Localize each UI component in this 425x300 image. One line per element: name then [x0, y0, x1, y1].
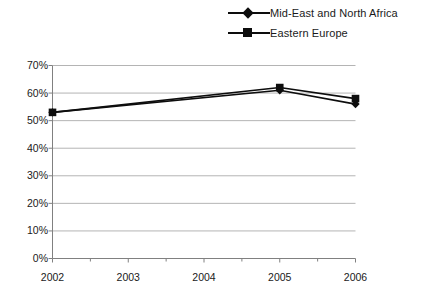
x-axis-tick-label: 2005 [250, 272, 310, 283]
x-axis-labels: 20022003200420052006 [0, 0, 425, 300]
x-axis-tick-label: 2002 [23, 272, 83, 283]
chart-container: Mid-East and North Africa Eastern Europe… [0, 0, 425, 300]
x-axis-tick-label: 2006 [326, 272, 386, 283]
x-axis-tick-label: 2004 [174, 272, 234, 283]
plot-area: 70%60%50%40%30%20%10%0% 2002200320042005… [0, 0, 425, 300]
x-axis-tick-label: 2003 [98, 272, 158, 283]
